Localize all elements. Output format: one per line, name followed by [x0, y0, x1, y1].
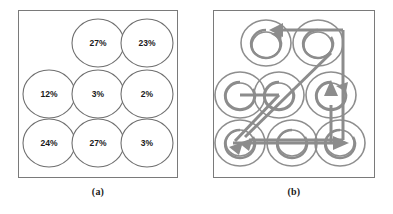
cell-label-r1c0: 12%	[40, 89, 57, 99]
panel-b	[213, 10, 375, 178]
panel-b-graphic	[213, 10, 375, 178]
cell-label-r0c1: 27%	[89, 38, 106, 48]
figure-container: 27% 23% 12% 3% 2% 24% 27% 3%	[0, 0, 393, 214]
cell-label-r2c0: 24%	[40, 138, 57, 148]
panel-a-graphic: 27% 23% 12% 3% 2% 24% 27% 3%	[18, 10, 178, 178]
cell-label-r2c1: 27%	[89, 138, 106, 148]
transition-path-arrows	[229, 23, 349, 155]
cell-label-r1c2: 2%	[141, 89, 154, 99]
cell-label-r2c2: 3%	[141, 138, 154, 148]
node-group-r0c2	[293, 20, 343, 66]
cell-label-r1c1: 3%	[92, 89, 105, 99]
node-group-r0c1	[241, 20, 291, 66]
transition-bottom-arrowhead	[333, 136, 349, 150]
caption-panel-a: (a)	[18, 186, 178, 197]
panel-a: 27% 23% 12% 3% 2% 24% 27% 3%	[18, 10, 178, 178]
caption-panel-b: (b)	[213, 186, 375, 197]
cell-label-r0c2: 23%	[138, 38, 155, 48]
